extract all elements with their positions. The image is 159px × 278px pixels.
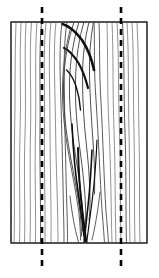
wood-board-diagram [0,0,159,278]
wood-board-figure [0,0,159,278]
board-rectangle [11,22,147,243]
